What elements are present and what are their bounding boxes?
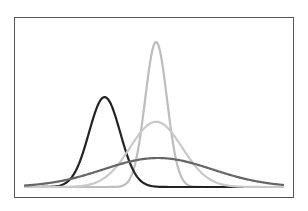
- curve-medium: [24, 122, 284, 187]
- curve-narrow-tall: [24, 42, 284, 187]
- curve-left-shifted: [24, 97, 284, 187]
- curve-wide-flat: [24, 158, 284, 186]
- chart-plot-area: [0, 0, 308, 211]
